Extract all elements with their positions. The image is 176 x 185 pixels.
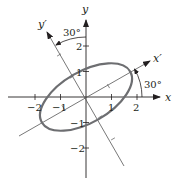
x-tick-label: −2 [27,102,42,113]
y-tick-label: −2 [70,143,85,154]
angle-label-x: 30° [144,79,162,90]
x-axis-label: x [165,91,172,104]
angle-arc-x [135,69,143,97]
y-axis-label: y [81,3,89,16]
rotated-ellipse-diagram: x y x′ y′ 30° 30° −2 −1 1 2 2 1 −1 −2 [0,0,176,185]
x-tick-label: 1 [108,102,114,113]
y-tick-label: −1 [70,118,85,129]
y-tick-label: 2 [76,41,82,52]
angle-label-y: 30° [63,27,81,38]
x-tick-label: 2 [133,102,139,113]
x-prime-axis-label: x′ [153,52,162,65]
y-prime-axis-label: y′ [37,18,47,31]
x-tick-label: −1 [52,102,67,113]
y-tick-label: 1 [76,67,82,78]
y-prime-axis [47,32,124,166]
